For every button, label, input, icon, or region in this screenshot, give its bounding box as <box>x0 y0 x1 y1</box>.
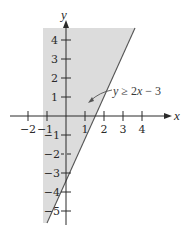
inequality-label: y ≥ 2x − 3 <box>112 84 161 98</box>
y-axis-label: y <box>59 7 67 22</box>
inequality-graph: −2 −1 1 2 3 4 x y 4 3 2 1 −1 −2 −3 −4 −5 <box>0 0 183 235</box>
y-tick-label: −3 <box>44 167 60 180</box>
y-tick-label: −4 <box>44 186 60 199</box>
y-tick-label: 1 <box>51 91 58 104</box>
x-tick-label: 2 <box>101 123 108 136</box>
y-tick-label: 4 <box>51 34 58 47</box>
x-tick-label: −2 <box>20 123 36 136</box>
y-tick-label: −2 <box>44 148 60 161</box>
y-tick-label: 2 <box>51 72 58 85</box>
x-axis-arrow-icon <box>164 113 172 119</box>
x-tick-label: 3 <box>120 123 127 136</box>
y-tick-label: −1 <box>44 129 60 142</box>
y-tick-label: 3 <box>51 53 58 66</box>
y-tick-label: −5 <box>44 205 60 218</box>
x-tick-label: 1 <box>82 123 89 136</box>
x-axis-label: x <box>173 108 180 123</box>
x-tick-label: 4 <box>139 123 146 136</box>
